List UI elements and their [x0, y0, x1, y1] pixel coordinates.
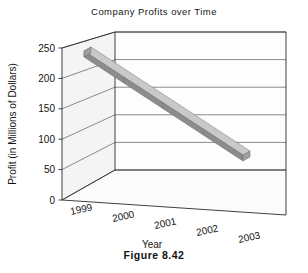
ytick-label-250: 250: [38, 43, 55, 54]
back-wall-panel: [115, 32, 286, 170]
ytick-label-0: 0: [49, 195, 55, 206]
ytick-label-200: 200: [38, 73, 55, 84]
ytick-label-150: 150: [38, 103, 55, 114]
ytick-label-50: 50: [44, 164, 56, 175]
xtick-label-2003: 2003: [237, 229, 261, 244]
y-axis-ticks: [59, 48, 63, 200]
figure-container: Company Profits over Time: [0, 0, 308, 273]
xtick-label-2002: 2002: [195, 222, 219, 237]
ytick-label-100: 100: [38, 134, 55, 145]
xtick-label-2000: 2000: [111, 208, 135, 223]
y-axis-title: Profit (in Millions of Dollars): [7, 63, 18, 185]
figure-caption: Figure 8.42: [0, 249, 308, 261]
chart-plot-area: 250 200 150 100 50 0 1999 2000: [0, 0, 308, 273]
xtick-label-1999: 1999: [69, 201, 93, 216]
xtick-label-2001: 2001: [153, 215, 177, 230]
